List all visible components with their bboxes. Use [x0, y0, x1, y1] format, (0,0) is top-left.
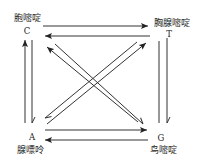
node-g-name: 鸟嘧啶	[150, 144, 177, 155]
base-mutation-diagram: 胞嘧啶 C 胸腺嘧啶 T A 腺嘌呤 G 鸟嘧啶	[0, 0, 201, 164]
node-t-symbol: T	[166, 29, 172, 39]
arrow-a-to-t	[47, 43, 146, 124]
node-t-name: 胸腺嘧啶	[154, 17, 190, 28]
node-g-symbol: G	[158, 133, 165, 143]
node-a-symbol: A	[28, 132, 36, 142]
diagram-svg: 胞嘧啶 C 胸腺嘧啶 T A 腺嘌呤 G 鸟嘧啶	[0, 0, 201, 164]
arrow-g-to-c	[47, 47, 138, 122]
node-a-name: 腺嘌呤	[17, 144, 44, 155]
node-c-symbol: C	[24, 26, 31, 36]
node-c-name: 胞嘧啶	[14, 12, 41, 23]
